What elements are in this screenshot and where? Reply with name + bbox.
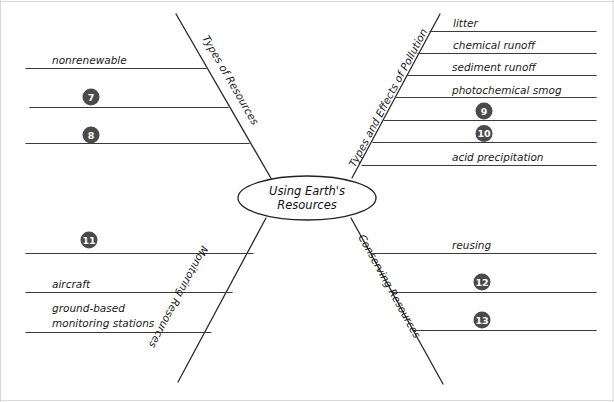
number-badge-label: 11 [82,235,95,246]
entry-label-litter: litter [453,17,479,29]
entry-label-ground-based-line1: ground-based [52,302,125,314]
entry-number-badge-12[interactable]: 12 [474,274,491,291]
branch-label-conserving-resources: Conserving Resources [356,232,423,340]
branch-label-monitoring-resources: Monitoring Resources [147,244,211,351]
entry-number-badge-9[interactable]: 9 [476,103,493,120]
concept-map-canvas: nonrenewable 7 8 Types of Resources litt… [0,0,614,402]
branch-spine-monitoring-resources [178,218,266,382]
branch-spine-types-of-resources [176,14,272,180]
center-node-title-line2: Resources [277,198,337,212]
center-node-title-line1: Using Earth's [269,184,345,198]
entry-label-chemical-runoff: chemical runoff [453,39,537,51]
branch-types-and-effects-of-pollution[interactable]: litter chemical runoff sediment runoff p… [346,14,596,178]
concept-map-svg: nonrenewable 7 8 Types of Resources litt… [0,0,614,402]
entry-number-badge-8[interactable]: 8 [83,127,100,144]
number-badge-label: 9 [481,106,488,117]
entry-label-acid-precipitation: acid precipitation [452,151,544,163]
entry-number-badge-7[interactable]: 7 [83,89,100,106]
entry-number-badge-13[interactable]: 13 [474,312,491,329]
entry-number-badge-11[interactable]: 11 [81,232,98,249]
branch-types-of-resources[interactable]: nonrenewable 7 8 Types of Resources [26,14,272,180]
number-badge-label: 13 [475,315,488,326]
number-badge-label: 8 [88,130,95,141]
number-badge-label: 12 [475,277,488,288]
number-badge-label: 10 [477,128,491,139]
entry-label-photochemical-smog: photochemical smog [451,84,562,96]
branch-monitoring-resources[interactable]: 11 aircraft ground-based monitoring stat… [26,218,266,382]
branch-label-types-of-resources: Types of Resources [200,33,261,127]
center-node[interactable]: Using Earth's Resources [238,176,376,220]
number-badge-label: 7 [88,92,95,103]
entry-label-aircraft: aircraft [52,278,91,290]
entry-label-sediment-runoff: sediment runoff [452,61,537,73]
entry-number-badge-10[interactable]: 10 [476,125,493,142]
entry-label-ground-based-line2: monitoring stations [52,317,155,329]
entry-label-nonrenewable: nonrenewable [52,54,127,66]
entry-label-reusing: reusing [452,239,491,251]
branch-conserving-resources[interactable]: reusing 12 13 Conserving Resources [351,218,596,384]
branch-spine-types-and-effects-of-pollution [352,14,440,178]
